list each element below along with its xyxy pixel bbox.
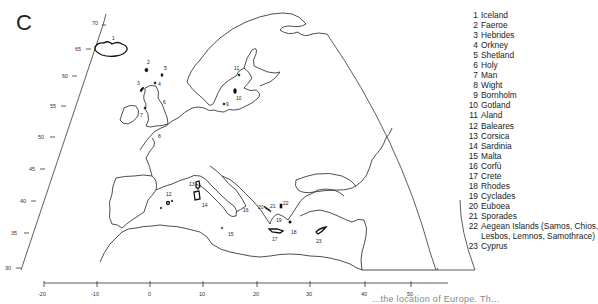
coastline-iberia: [109, 175, 156, 228]
lat-tick-60: 60: [62, 73, 68, 79]
legend-item: 3Hebrides: [466, 30, 598, 40]
lon-tick-30: 30: [306, 291, 312, 297]
legend-item-continuation: Lesbos, Lemnos, Samothrace): [466, 231, 598, 241]
svg-text:5: 5: [164, 65, 167, 71]
lon-tick-10: 10: [199, 291, 205, 297]
island-malta: 15: [221, 227, 233, 237]
latitude-axis: 70 65 60 55 50 45 40 35 30: [5, 20, 106, 271]
legend-item: 15Malta: [466, 151, 598, 161]
svg-text:7: 7: [140, 112, 143, 118]
legend-item: 8Wight: [466, 80, 598, 90]
island-wight: 8: [158, 133, 161, 139]
svg-text:14: 14: [202, 202, 208, 208]
svg-text:2: 2: [147, 59, 150, 65]
coastline-scandinavia: [187, 13, 327, 112]
panel-letter: C: [16, 10, 32, 36]
legend-item: 19Cyclades: [466, 191, 598, 201]
legend-item: 1Iceland: [466, 10, 598, 20]
lon-tick-minus20: -20: [38, 291, 46, 297]
island-great-britain: [144, 85, 168, 127]
island-crete: 17: [269, 229, 283, 242]
svg-text:1: 1: [112, 35, 115, 41]
island-ireland: [120, 105, 139, 124]
coastline-black-sea: [295, 173, 356, 192]
map-frame: [21, 14, 475, 270]
svg-text:11: 11: [234, 65, 239, 71]
svg-text:20: 20: [258, 204, 264, 210]
legend-item: 20Euboea: [466, 201, 598, 211]
svg-text:13: 13: [189, 181, 195, 187]
legend-item: 14Sardinia: [466, 141, 598, 151]
legend-item: 9Bornholm: [466, 90, 598, 100]
coastline-baltic: [244, 49, 280, 86]
lat-tick-30: 30: [5, 265, 11, 271]
lat-tick-55: 55: [50, 103, 56, 109]
svg-text:18: 18: [291, 229, 297, 235]
legend-item: 4Orkney: [466, 40, 598, 50]
island-gotland: 10: [234, 89, 242, 102]
svg-text:4: 4: [158, 81, 161, 87]
lat-tick-65: 65: [75, 46, 81, 52]
island-faeroe: 2: [145, 59, 150, 72]
svg-text:15: 15: [228, 231, 234, 237]
lon-tick-20: 20: [253, 291, 259, 297]
legend-item: 21Sporades: [466, 211, 598, 221]
island-cyclades: 19: [276, 217, 282, 223]
svg-text:21: 21: [270, 203, 276, 209]
lat-tick-70: 70: [92, 20, 98, 26]
svg-text:8: 8: [158, 133, 161, 139]
svg-text:17: 17: [272, 236, 278, 242]
island-baleares: 12: [160, 191, 173, 209]
island-holy: 6: [163, 99, 166, 105]
lat-tick-35: 35: [11, 230, 17, 236]
legend-item: 7Man: [466, 70, 598, 80]
island-bornholm: 9: [223, 101, 229, 107]
island-man: 7: [140, 107, 146, 118]
legend-item: 11Aland: [466, 110, 598, 120]
svg-text:12: 12: [166, 191, 172, 197]
legend-item: 16Corfù: [466, 161, 598, 171]
coastline-north-africa: [100, 225, 436, 270]
svg-text:6: 6: [163, 99, 166, 105]
coastline-central-europe: [140, 107, 214, 150]
island-hebrides: 3: [137, 80, 144, 92]
legend-item: 23Cyprus: [466, 241, 598, 251]
legend-item: 12Baleares: [466, 121, 598, 131]
lat-tick-40: 40: [20, 198, 26, 204]
svg-text:19: 19: [276, 217, 282, 223]
legend-item: 22Aegean Islands (Samos, Chios,: [466, 221, 598, 231]
island-cyprus: 23: [316, 227, 326, 244]
island-corfu: 16: [243, 207, 249, 213]
legend-item: 18Rhodes: [466, 181, 598, 191]
lat-tick-50: 50: [38, 134, 44, 140]
lat-tick-45: 45: [29, 166, 35, 172]
legend-item: 5Shetland: [466, 50, 598, 60]
island-rhodes: 18: [289, 221, 297, 235]
svg-text:9: 9: [226, 101, 229, 107]
legend-item: 6Holy: [466, 60, 598, 70]
lon-tick-0: 0: [148, 291, 151, 297]
coastline-turkey-levant: [300, 210, 367, 270]
lon-tick-40: 40: [361, 291, 367, 297]
island-aegean: 22: [280, 200, 289, 208]
svg-text:16: 16: [243, 207, 249, 213]
island-sporades: 21: [270, 203, 276, 209]
legend-item: 13Corsica: [466, 131, 598, 141]
lon-tick-minus10: -10: [91, 291, 99, 297]
island-iceland: 1: [95, 35, 127, 56]
island-legend: 1Iceland 2Faeroe 3Hebrides 4Orkney 5Shet…: [466, 10, 598, 251]
island-shetland: 5: [161, 65, 167, 77]
svg-text:10: 10: [236, 95, 242, 101]
svg-text:3: 3: [137, 80, 140, 86]
figure-caption-fragment: ...the location of Europe. Th...: [372, 294, 500, 304]
legend-item: 10Gotland: [466, 100, 598, 110]
svg-text:23: 23: [316, 238, 322, 244]
svg-text:22: 22: [283, 200, 289, 206]
legend-item: 2Faeroe: [466, 20, 598, 30]
legend-item: 17Crete: [466, 171, 598, 181]
